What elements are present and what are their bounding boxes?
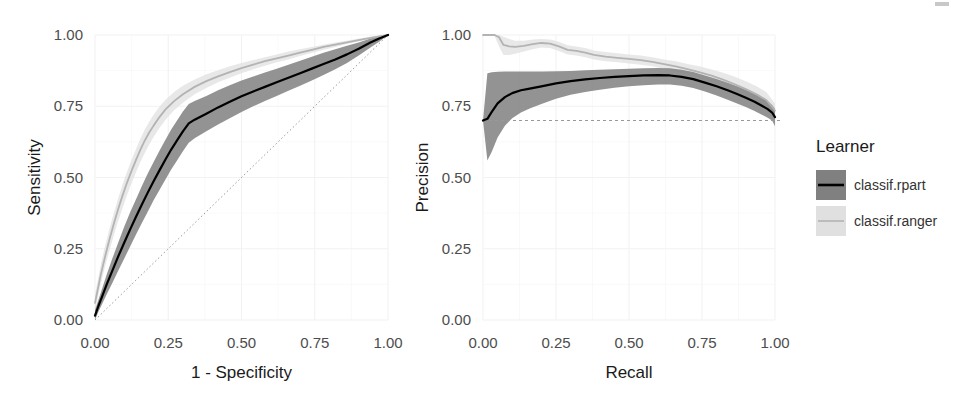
y-tick-label: 0.25 <box>442 240 471 257</box>
y-tick-label: 0.25 <box>54 240 83 257</box>
y-tick-label: 0.50 <box>54 169 83 186</box>
x-tick-label: 0.25 <box>154 334 183 351</box>
legend: Learnerclassif.rpartclassif.ranger <box>816 137 938 236</box>
legend-item-label: classif.rpart <box>854 177 926 193</box>
x-axis-title: Recall <box>605 363 652 382</box>
y-tick-label: 1.00 <box>442 26 471 43</box>
x-tick-label: 0.00 <box>468 334 497 351</box>
x-tick-label: 0.75 <box>300 334 329 351</box>
y-tick-label: 0.00 <box>54 311 83 328</box>
roc-prc-figure: 0.000.250.500.751.000.000.250.500.751.00… <box>0 0 964 413</box>
legend-title: Learner <box>816 137 875 156</box>
y-tick-label: 0.75 <box>442 97 471 114</box>
y-tick-label: 0.00 <box>442 311 471 328</box>
chart-canvas: 0.000.250.500.751.000.000.250.500.751.00… <box>0 0 964 413</box>
x-tick-label: 0.75 <box>687 334 716 351</box>
x-tick-label: 1.00 <box>373 334 402 351</box>
y-axis-title: Precision <box>413 143 432 213</box>
y-axis-title: Sensitivity <box>25 139 44 216</box>
x-tick-label: 0.50 <box>614 334 643 351</box>
panel-roc: 0.000.250.500.751.000.000.250.500.751.00… <box>25 26 403 382</box>
artifact-mark <box>935 2 949 6</box>
legend-item-label: classif.ranger <box>854 213 938 229</box>
y-tick-label: 1.00 <box>54 26 83 43</box>
x-axis-title: 1 - Specificity <box>191 363 293 382</box>
y-tick-label: 0.75 <box>54 97 83 114</box>
x-tick-label: 1.00 <box>760 334 789 351</box>
y-tick-label: 0.50 <box>442 169 471 186</box>
legend-item-classif-ranger[interactable]: classif.ranger <box>816 206 938 236</box>
panel-prc: 0.000.250.500.751.000.000.250.500.751.00… <box>413 26 790 382</box>
legend-item-classif-rpart[interactable]: classif.rpart <box>816 170 926 200</box>
x-tick-label: 0.50 <box>227 334 256 351</box>
x-tick-label: 0.00 <box>80 334 109 351</box>
x-tick-label: 0.25 <box>541 334 570 351</box>
